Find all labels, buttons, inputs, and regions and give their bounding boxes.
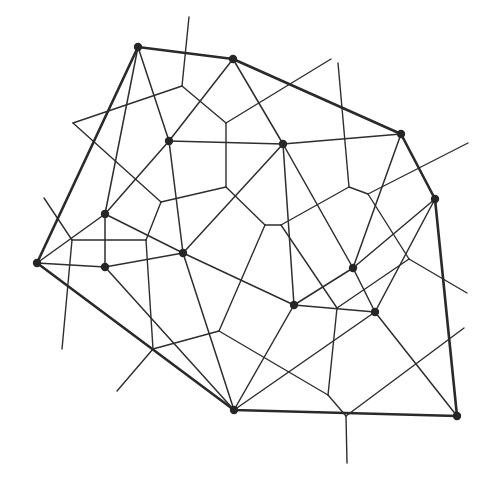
voronoi-edge — [146, 202, 161, 240]
site-point-M — [349, 264, 357, 272]
site-point-E — [453, 412, 461, 420]
site-point-N — [290, 301, 298, 309]
voronoi-edge — [346, 416, 347, 463]
delaunay-edge — [294, 305, 375, 312]
delaunay-edge — [169, 59, 233, 141]
delaunay-edges — [37, 47, 457, 416]
voronoi-edge — [226, 59, 331, 123]
delaunay-edge — [183, 144, 283, 253]
site-point-I — [279, 140, 287, 148]
delaunay-edge — [183, 253, 294, 305]
voronoi-edge — [73, 86, 182, 123]
voronoi-edge — [73, 123, 161, 202]
site-point-O — [371, 308, 379, 316]
delaunay-edge — [105, 253, 183, 267]
delaunay-edge — [294, 268, 353, 305]
voronoi-edge — [182, 86, 226, 123]
voronoi-edge — [328, 308, 337, 395]
delaunay-edge — [234, 305, 294, 410]
voronoi-edge — [219, 225, 265, 331]
delaunay-edge — [105, 47, 138, 214]
delaunay-edge — [375, 199, 435, 312]
convex-hull-outline — [37, 47, 457, 416]
site-point-B — [229, 55, 237, 63]
site-point-J — [101, 210, 109, 218]
voronoi-edge — [146, 240, 153, 349]
delaunay-edge — [353, 268, 375, 312]
voronoi-edge — [338, 63, 349, 187]
voronoi-edge — [281, 187, 349, 225]
delaunay-edge — [105, 214, 183, 253]
site-point-K — [101, 263, 109, 271]
site-point-L — [179, 249, 187, 257]
voronoi-edges — [44, 17, 468, 463]
site-point-A — [134, 43, 142, 51]
voronoi-edge — [62, 240, 72, 349]
delaunay-edge — [375, 312, 457, 416]
delaunay-edge — [105, 141, 169, 214]
delaunay-edge — [138, 47, 169, 141]
site-point-H — [165, 137, 173, 145]
delaunay-edge — [183, 253, 234, 410]
site-point-D — [431, 195, 439, 203]
voronoi-edge — [337, 259, 409, 308]
delaunay-edge — [283, 144, 353, 268]
delaunay-edge — [234, 312, 375, 410]
voronoi-edge — [409, 259, 467, 293]
convex-hull — [37, 47, 457, 416]
site-point-F — [230, 406, 238, 414]
delaunay-edge — [233, 59, 283, 144]
site-point-G — [33, 259, 41, 267]
voronoi-edge — [349, 187, 368, 194]
delaunay-edge — [37, 263, 105, 267]
voronoi-edge — [117, 349, 153, 391]
site-point-C — [397, 130, 405, 138]
delaunay-voronoi-diagram — [0, 0, 491, 489]
delaunay-edge — [105, 267, 234, 410]
delaunay-edge — [283, 134, 401, 144]
voronoi-edge — [226, 187, 265, 225]
voronoi-edge — [161, 187, 226, 202]
delaunay-edge — [283, 144, 294, 305]
